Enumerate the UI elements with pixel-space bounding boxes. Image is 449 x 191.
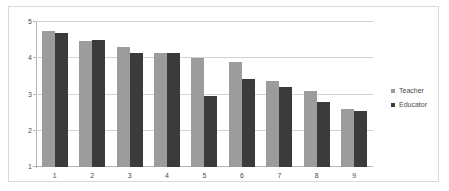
bar-educator-7[interactable] (279, 87, 292, 167)
chart-legend: TeacherEducator (391, 87, 427, 108)
bar-group: 4 (148, 22, 185, 167)
legend-item-teacher[interactable]: Teacher (391, 87, 427, 94)
y-axis-tick-label: 5 (28, 18, 32, 25)
bar-teacher-7[interactable] (266, 81, 279, 167)
bar-educator-9[interactable] (354, 111, 367, 167)
x-axis-tick-label: 1 (53, 172, 57, 179)
x-axis-tick-label: 9 (352, 172, 356, 179)
x-axis-tick-label: 2 (90, 172, 94, 179)
bar-group: 2 (73, 22, 110, 167)
y-axis-tick-label: 2 (28, 126, 32, 133)
x-axis-tick-label: 6 (240, 172, 244, 179)
y-axis-tick-label: 3 (28, 90, 32, 97)
plot-area: 54321 123456789 (36, 22, 373, 167)
bar-teacher-8[interactable] (304, 91, 317, 167)
legend-swatch-icon (391, 103, 395, 107)
bar-educator-6[interactable] (242, 79, 255, 167)
bar-teacher-5[interactable] (191, 58, 204, 167)
bar-teacher-4[interactable] (154, 53, 167, 167)
bar-group: 1 (36, 22, 73, 167)
bar-educator-5[interactable] (204, 96, 217, 167)
y-axis-tick-label: 1 (28, 163, 32, 170)
x-axis-tick-label: 8 (315, 172, 319, 179)
bar-teacher-2[interactable] (79, 41, 92, 167)
bar-group: 9 (336, 22, 373, 167)
x-axis-tick-label: 3 (128, 172, 132, 179)
bar-educator-8[interactable] (317, 102, 330, 167)
bar-teacher-9[interactable] (341, 109, 354, 167)
legend-label: Educator (399, 101, 427, 108)
x-axis-tick-label: 5 (203, 172, 207, 179)
bar-educator-3[interactable] (130, 53, 143, 167)
bar-group: 3 (111, 22, 148, 167)
y-axis-tick-label: 4 (28, 54, 32, 61)
bar-teacher-3[interactable] (117, 47, 130, 167)
x-axis-tick-label: 7 (277, 172, 281, 179)
bar-educator-1[interactable] (55, 33, 68, 167)
bar-groups: 123456789 (36, 22, 373, 167)
bar-group: 7 (261, 22, 298, 167)
legend-swatch-icon (391, 89, 395, 93)
bar-group: 6 (223, 22, 260, 167)
chart-frame: 54321 123456789 TeacherEducator (8, 6, 439, 182)
bar-teacher-1[interactable] (42, 31, 55, 167)
bar-group: 8 (298, 22, 335, 167)
bar-educator-4[interactable] (167, 53, 180, 167)
legend-label: Teacher (399, 87, 424, 94)
x-axis-tick-label: 4 (165, 172, 169, 179)
bar-educator-2[interactable] (92, 40, 105, 167)
bar-group: 5 (186, 22, 223, 167)
legend-item-educator[interactable]: Educator (391, 101, 427, 108)
bar-teacher-6[interactable] (229, 62, 242, 167)
